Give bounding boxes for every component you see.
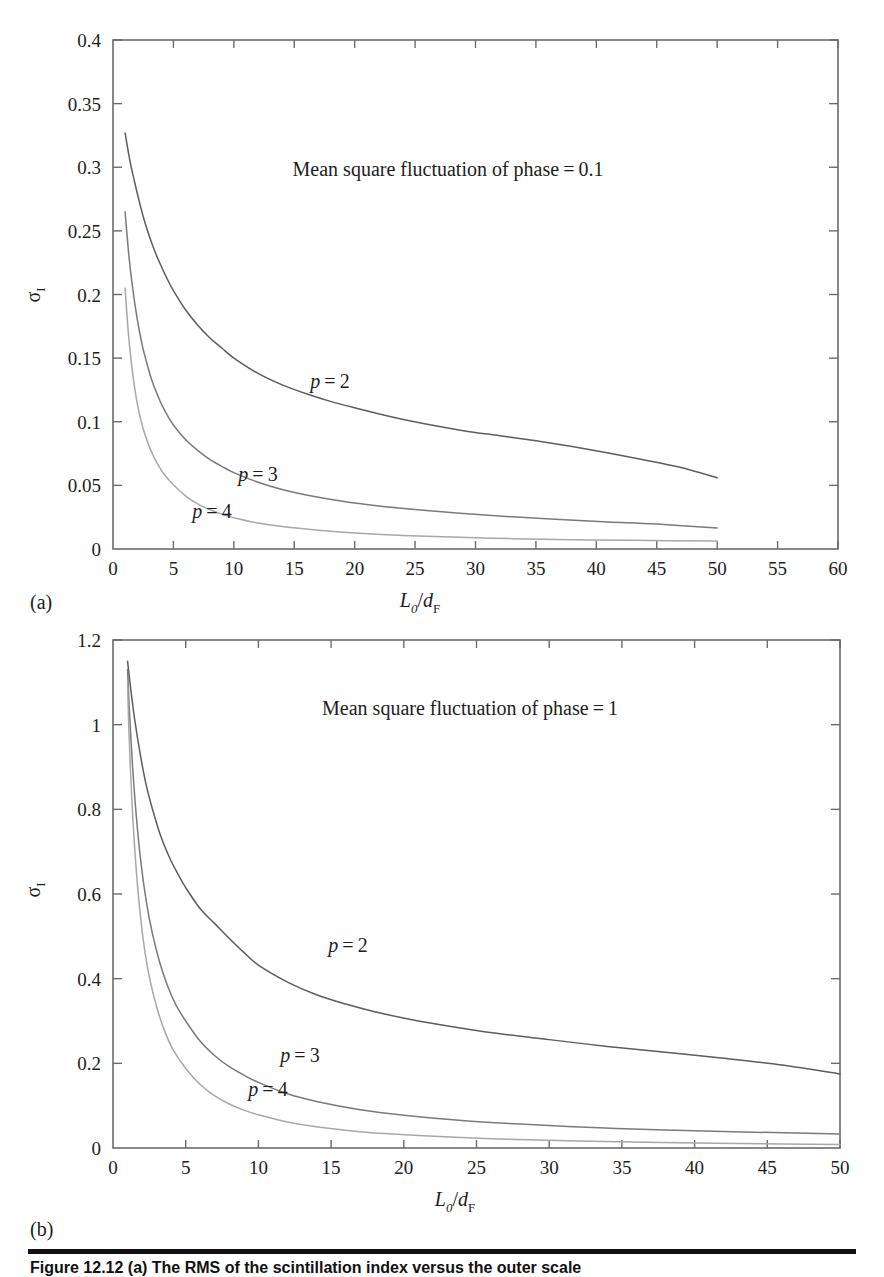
curve-label-p-2: p = 2: [308, 370, 349, 393]
y-tick-label: 0.2: [77, 285, 101, 306]
x-tick-label: 30: [466, 558, 485, 579]
data-curve-p-3: [125, 212, 717, 528]
y-tick-label: 0.4: [77, 30, 101, 51]
x-tick-label: 0: [108, 558, 118, 579]
panel-a-tag: (a): [30, 591, 52, 614]
y-tick-label: 0.8: [77, 799, 101, 820]
y-axis-title: σI: [22, 287, 48, 302]
y-axis-title: σI: [22, 882, 48, 897]
y-tick-label: 0.6: [77, 884, 101, 905]
x-tick-label: 45: [647, 558, 666, 579]
data-curve-p-2: [128, 661, 840, 1074]
x-tick-label: 20: [345, 558, 364, 579]
panel-b-tag: (b): [30, 1218, 53, 1241]
curve-label-p-4: p = 4: [190, 500, 231, 523]
x-tick-label: 10: [224, 558, 243, 579]
x-tick-label: 25: [406, 558, 425, 579]
caption-divider-rule: [28, 1249, 856, 1254]
y-tick-label: 0.25: [68, 221, 101, 242]
x-tick-label: 5: [169, 558, 179, 579]
x-tick-label: 10: [249, 1157, 268, 1178]
svg-text:σI: σI: [22, 882, 48, 897]
x-tick-label: 55: [768, 558, 787, 579]
x-tick-label: 5: [181, 1157, 191, 1178]
curve-label-p-3: p = 3: [278, 1044, 319, 1067]
data-curve-p-4: [128, 682, 840, 1144]
annotation-mean-square-fluctuation: Mean square fluctuation of phase = 0.1: [293, 158, 604, 181]
x-tick-label: 15: [322, 1157, 341, 1178]
y-tick-label: 0.1: [77, 412, 101, 433]
x-axis-title: L0/dF: [434, 1188, 475, 1215]
figure-caption: Figure 12.12 (a) The RMS of the scintill…: [30, 1259, 870, 1277]
x-tick-label: 15: [285, 558, 304, 579]
curve-label-p-2: p = 2: [326, 934, 367, 957]
y-tick-label: 0.3: [77, 157, 101, 178]
y-tick-label: 0.2: [77, 1053, 101, 1074]
y-tick-label: 0: [92, 1138, 102, 1159]
x-tick-label: 35: [526, 558, 545, 579]
annotation-mean-square-fluctuation: Mean square fluctuation of phase = 1: [322, 697, 618, 720]
y-tick-label: 0.15: [68, 348, 101, 369]
x-tick-label: 45: [758, 1157, 777, 1178]
x-tick-label: 50: [831, 1157, 850, 1178]
x-tick-label: 50: [708, 558, 727, 579]
svg-text:σI: σI: [22, 287, 48, 302]
y-tick-label: 1: [92, 715, 102, 736]
x-tick-label: 40: [587, 558, 606, 579]
y-tick-label: 1.2: [77, 630, 101, 651]
data-curve-p-2: [125, 133, 717, 478]
plot-area-panel-a: 05101520253035404550556000.050.10.150.20…: [0, 0, 884, 620]
panel-b: 0510152025303540455000.20.40.60.811.2Mea…: [0, 600, 884, 1220]
x-tick-label: 0: [108, 1157, 118, 1178]
plot-frame: [113, 40, 838, 549]
x-tick-label: 20: [394, 1157, 413, 1178]
panel-a: 05101520253035404550556000.050.10.150.20…: [0, 0, 884, 620]
data-curve-p-3: [128, 670, 840, 1134]
curve-label-p-3: p = 3: [236, 463, 277, 486]
y-tick-label: 0.05: [68, 475, 101, 496]
y-tick-label: 0: [92, 539, 102, 560]
curve-label-p-4: p = 4: [246, 1078, 287, 1101]
x-tick-label: 30: [540, 1157, 559, 1178]
x-tick-label: 25: [467, 1157, 486, 1178]
y-tick-label: 0.35: [68, 94, 101, 115]
x-tick-label: 35: [612, 1157, 631, 1178]
y-tick-label: 0.4: [77, 969, 101, 990]
x-tick-label: 40: [685, 1157, 704, 1178]
x-tick-label: 60: [829, 558, 848, 579]
plot-area-panel-b: 0510152025303540455000.20.40.60.811.2Mea…: [0, 600, 884, 1220]
